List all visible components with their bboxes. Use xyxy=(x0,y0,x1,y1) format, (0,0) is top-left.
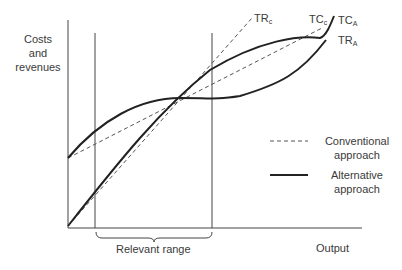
legend-text-line: approach xyxy=(312,148,402,162)
y-label-line: revenues xyxy=(12,60,64,74)
y-label-line: Costs xyxy=(12,32,64,46)
tca-label: TCA xyxy=(338,13,357,31)
legend-text-line: Conventional xyxy=(312,134,402,148)
legend-text-line: approach xyxy=(312,182,402,196)
y-axis-label: Costs and revenues xyxy=(12,32,64,74)
legend-alternative: Alternative approach xyxy=(312,168,402,196)
y-label-line: and xyxy=(12,46,64,60)
legend-text-line: Alternative xyxy=(312,168,402,182)
relevant-range-label: Relevant range xyxy=(116,242,191,256)
tra-curve xyxy=(68,40,326,158)
relevant-range-brace xyxy=(96,232,212,242)
trc-label: TRc xyxy=(254,11,272,29)
tcc-label: TCc xyxy=(309,12,327,30)
tra-label: TRA xyxy=(338,33,357,51)
tcc-curve xyxy=(68,28,322,158)
x-axis-label: Output xyxy=(316,241,349,255)
legend-conventional: Conventional approach xyxy=(312,134,402,162)
trc-curve xyxy=(68,18,252,226)
